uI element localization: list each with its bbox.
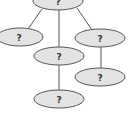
node-label: ? <box>55 0 60 7</box>
node-label: ? <box>56 95 61 105</box>
edge-root-left <box>28 9 42 29</box>
node-right-child: ? <box>75 68 125 86</box>
node-label: ? <box>97 73 102 83</box>
tree-diagram: ? ? ? ? ? ? <box>0 0 138 136</box>
node-bottom: ? <box>34 90 84 108</box>
node-root: ? <box>33 0 83 10</box>
node-label: ? <box>16 33 21 43</box>
node-right: ? <box>75 29 125 47</box>
edge-root-right <box>77 8 92 30</box>
node-left: ? <box>0 28 43 46</box>
node-label: ? <box>56 52 61 62</box>
node-label: ? <box>97 34 102 44</box>
node-middle: ? <box>34 47 84 65</box>
